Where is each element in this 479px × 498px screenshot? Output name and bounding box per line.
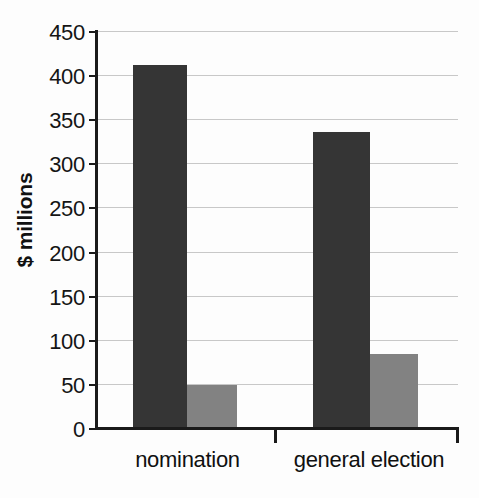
y-tick-100 <box>89 340 97 342</box>
y-tick-label-400: 400 <box>5 64 85 90</box>
bar-chart: $ millions 450 400 350 300 250 200 150 1… <box>0 0 479 498</box>
y-tick-label-150: 150 <box>5 285 85 311</box>
gridline-450 <box>97 31 458 32</box>
x-axis-label-general-election: general election <box>278 447 460 473</box>
x-tick-end <box>456 430 459 443</box>
y-tick-150 <box>89 296 97 298</box>
y-tick-label-100: 100 <box>5 329 85 355</box>
y-tick-450 <box>89 31 97 33</box>
y-tick-250 <box>89 207 97 209</box>
x-tick-group-separator <box>274 430 277 443</box>
bar-nomination-series-1 <box>133 65 187 428</box>
y-tick-label-50: 50 <box>5 373 85 399</box>
y-tick-0 <box>89 428 97 430</box>
y-tick-label-300: 300 <box>5 152 85 178</box>
y-tick-label-450: 450 <box>5 20 85 46</box>
bar-general-election-series-2 <box>370 354 418 428</box>
y-tick-350 <box>89 119 97 121</box>
x-axis-line <box>95 427 459 430</box>
y-axis-line <box>95 30 98 430</box>
x-axis-label-nomination: nomination <box>105 447 270 473</box>
y-tick-label-250: 250 <box>5 196 85 222</box>
y-tick-50 <box>89 384 97 386</box>
y-tick-400 <box>89 75 97 77</box>
bar-general-election-series-1 <box>313 132 370 428</box>
bar-nomination-series-2 <box>187 385 237 428</box>
y-tick-200 <box>89 252 97 254</box>
plot-area <box>97 31 458 428</box>
y-tick-label-350: 350 <box>5 108 85 134</box>
y-tick-label-0: 0 <box>5 417 85 443</box>
y-tick-300 <box>89 163 97 165</box>
y-tick-label-200: 200 <box>5 241 85 267</box>
